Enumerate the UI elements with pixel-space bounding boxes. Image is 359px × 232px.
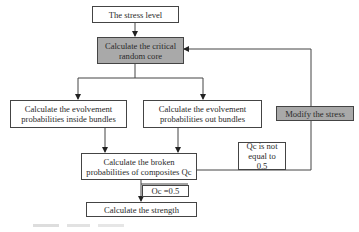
node-label: Calculate the critical random core <box>104 41 177 61</box>
figure-caption-fragment <box>33 224 163 227</box>
node-label: Calculate the strength <box>104 205 179 215</box>
node-out-bundles: Calculate the evolvement probabilities o… <box>143 100 262 128</box>
condition-not-equal: Qc is not equal to 0.5 <box>238 142 286 170</box>
condition-label: Oc =0.5 <box>152 186 180 196</box>
node-stress-level: The stress level <box>92 6 179 23</box>
node-label: Calculate the broken probabilities of co… <box>86 157 192 177</box>
node-strength: Calculate the strength <box>86 202 197 217</box>
node-label: The stress level <box>109 10 162 20</box>
node-modify-stress: Modify the stress <box>276 106 354 121</box>
node-inside-bundles: Calculate the evolvement probabilities i… <box>10 100 127 128</box>
condition-label: Qc is not equal to 0.5 <box>243 141 281 171</box>
node-critical-core: Calculate the critical random core <box>97 37 184 64</box>
node-label: Modify the stress <box>285 109 345 119</box>
node-label: Calculate the evolvement probabilities o… <box>152 104 253 124</box>
node-label: Calculate the evolvement probabilities i… <box>19 104 118 124</box>
node-broken-probabilities: Calculate the broken probabilities of co… <box>81 153 197 180</box>
condition-equal: Oc =0.5 <box>142 185 189 197</box>
